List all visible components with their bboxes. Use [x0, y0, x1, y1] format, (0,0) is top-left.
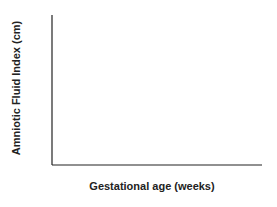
y-axis-title: Amniotic Fluid Index (cm): [10, 20, 22, 155]
axes: [52, 15, 262, 165]
x-axis-title: Gestational age (weeks): [89, 180, 215, 192]
amniotic-fluid-index-chart: Gestational age (weeks) Amniotic Fluid I…: [0, 0, 277, 207]
